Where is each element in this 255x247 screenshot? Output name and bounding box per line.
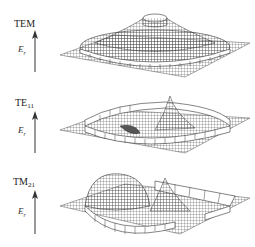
mode-label-tem: TEM xyxy=(14,18,35,29)
axis-subscript: r xyxy=(24,131,26,137)
panel-tem: TEM Er xyxy=(0,0,255,85)
mode-subscript: 11 xyxy=(27,102,34,110)
arrow-up-icon xyxy=(30,190,40,234)
axis-label-er: Er xyxy=(18,125,26,137)
mode-label-te11: TE11 xyxy=(15,97,34,110)
mode-label-tm21: TM21 xyxy=(13,176,35,189)
surface-plot-te11 xyxy=(55,88,255,160)
surface-plot-tem xyxy=(55,5,255,80)
arrow-up-icon xyxy=(30,111,40,153)
axis-label-er: Er xyxy=(18,44,26,56)
axis-label-er: Er xyxy=(18,206,26,218)
panel-te11: TE11 Er xyxy=(0,85,255,162)
axis-subscript: r xyxy=(24,50,26,56)
arrow-up-icon xyxy=(30,30,40,72)
mode-name: TEM xyxy=(14,18,35,29)
mode-name: TM xyxy=(13,176,28,187)
mode-name: TE xyxy=(15,97,27,108)
panel-tm21: TM21 Er xyxy=(0,162,255,247)
surface-plot-tm21 xyxy=(55,166,255,244)
mode-subscript: 21 xyxy=(28,181,35,189)
axis-subscript: r xyxy=(24,212,26,218)
